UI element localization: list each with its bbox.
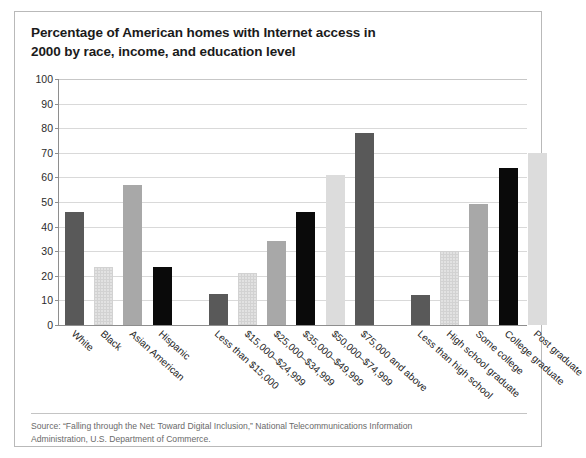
y-axis-line <box>58 79 59 326</box>
y-tick-label-20: 20 <box>41 270 53 282</box>
x-tick-label: White <box>69 328 95 353</box>
y-tick-label-90: 90 <box>41 98 53 110</box>
y-tick-label-30: 30 <box>41 245 53 257</box>
bar <box>499 168 518 325</box>
plot-inner: 0102030405060708090100 <box>58 79 527 326</box>
chart-title: Percentage of American homes with Intern… <box>31 23 501 61</box>
y-tick-label-100: 100 <box>35 73 53 85</box>
chart-figure: Percentage of American homes with Intern… <box>14 11 542 447</box>
bar <box>296 212 315 325</box>
source-line-1: Source: “Falling through the Net: Toward… <box>31 420 501 433</box>
y-tick-label-10: 10 <box>41 294 53 306</box>
y-tick-label-60: 60 <box>41 171 53 183</box>
bar <box>411 295 430 325</box>
bar <box>326 175 345 325</box>
bar <box>267 241 286 325</box>
x-axis-labels: WhiteBlackAsian AmericanHispanicLess tha… <box>58 328 558 418</box>
bar <box>469 204 488 325</box>
gridline-90 <box>58 104 527 105</box>
bar <box>440 251 459 325</box>
bar <box>123 185 142 325</box>
plot-area: 0102030405060708090100 <box>58 79 527 326</box>
bar <box>94 267 113 325</box>
bar <box>65 212 84 325</box>
bar <box>209 294 228 325</box>
gridline-60 <box>58 177 527 178</box>
gridline-100 <box>58 79 527 80</box>
x-tick-label: Black <box>98 328 124 353</box>
chart-title-line-2: 2000 by race, income, and education leve… <box>31 42 501 61</box>
bar <box>153 267 172 325</box>
gridline-80 <box>58 128 527 129</box>
gridline-70 <box>58 153 527 154</box>
source-divider <box>31 413 527 414</box>
bar <box>355 133 374 325</box>
x-axis-line <box>58 325 527 326</box>
y-tick-label-70: 70 <box>41 147 53 159</box>
bar <box>528 153 547 325</box>
y-tick-label-50: 50 <box>41 196 53 208</box>
source-note: Source: “Falling through the Net: Toward… <box>31 420 501 445</box>
source-line-2: Administration, U.S. Department of Comme… <box>31 433 501 446</box>
y-tick-label-0: 0 <box>47 319 53 331</box>
bar <box>238 273 257 325</box>
y-tick-label-80: 80 <box>41 122 53 134</box>
chart-title-line-1: Percentage of American homes with Intern… <box>31 23 501 42</box>
y-tick-label-40: 40 <box>41 221 53 233</box>
